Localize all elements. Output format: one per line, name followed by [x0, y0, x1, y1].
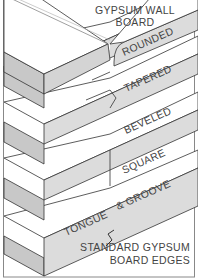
board-stack-drawing: ROUNDED TAPERED BEVELED SQUARE TONGUE & … — [0, 0, 198, 280]
title: GYPSUM WALL BOARD — [80, 4, 190, 28]
caption: STANDARD GYPSUM BOARD EDGES — [60, 241, 190, 267]
title-line-2: BOARD — [80, 16, 190, 28]
gypsum-board-edges-illustration: ROUNDED TAPERED BEVELED SQUARE TONGUE & … — [0, 0, 198, 280]
caption-line-1: STANDARD GYPSUM — [60, 241, 190, 254]
title-line-1: GYPSUM WALL — [80, 4, 190, 16]
caption-line-2: BOARD EDGES — [60, 254, 190, 267]
